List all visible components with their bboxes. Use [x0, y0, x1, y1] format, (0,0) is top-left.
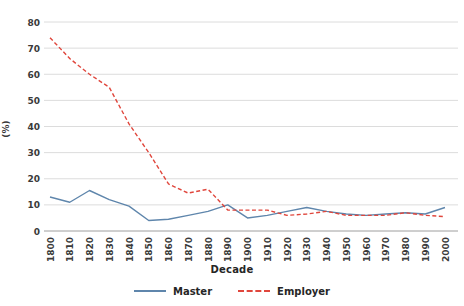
- legend-item-master: Master: [134, 286, 212, 297]
- x-tick-label: 1800: [46, 237, 56, 262]
- x-tick-label: 1820: [85, 237, 95, 262]
- x-tick-label: 1880: [204, 237, 214, 262]
- chart-plot: 0102030405060708018001810182018301840185…: [0, 0, 464, 306]
- x-axis-title: Decade: [0, 264, 464, 275]
- x-tick-label: 1900: [243, 237, 253, 262]
- legend-label-master: Master: [173, 286, 212, 297]
- x-tick-label: 1890: [223, 237, 233, 262]
- x-tick-label: 1990: [421, 237, 431, 262]
- y-tick-label: 0: [34, 227, 40, 237]
- x-tick-label: 1870: [184, 237, 194, 262]
- y-tick-label: 10: [27, 200, 40, 210]
- x-tick-label: 1960: [362, 237, 372, 262]
- legend: Master Employer: [0, 283, 464, 299]
- y-axis-title: (%): [1, 114, 11, 144]
- x-tick-label: 1940: [322, 237, 332, 262]
- x-tick-label: 1830: [105, 237, 115, 262]
- y-tick-label: 50: [27, 96, 40, 106]
- x-tick-label: 1910: [263, 237, 273, 262]
- legend-item-employer: Employer: [238, 286, 330, 297]
- y-tick-label: 30: [27, 148, 40, 158]
- x-tick-label: 1970: [381, 237, 391, 262]
- x-tick-label: 1810: [65, 237, 75, 262]
- x-tick-label: 1860: [164, 237, 174, 262]
- x-tick-label: 1980: [401, 237, 411, 262]
- y-tick-label: 80: [27, 18, 40, 28]
- master-line-swatch-icon: [134, 290, 166, 292]
- employer-series-line: [50, 38, 445, 217]
- legend-label-employer: Employer: [277, 286, 330, 297]
- x-tick-label: 1950: [342, 237, 352, 262]
- line-chart-figure: 0102030405060708018001810182018301840185…: [0, 0, 464, 306]
- x-tick-label: 1850: [144, 237, 154, 262]
- y-tick-label: 40: [27, 122, 40, 132]
- master-series-line: [50, 191, 445, 221]
- x-tick-label: 1920: [283, 237, 293, 262]
- y-tick-label: 60: [27, 70, 40, 80]
- x-tick-label: 2000: [441, 237, 451, 262]
- y-tick-label: 20: [27, 174, 40, 184]
- employer-line-swatch-icon: [238, 290, 270, 292]
- y-tick-label: 70: [27, 44, 40, 54]
- x-tick-label: 1840: [125, 237, 135, 262]
- x-tick-label: 1930: [302, 237, 312, 262]
